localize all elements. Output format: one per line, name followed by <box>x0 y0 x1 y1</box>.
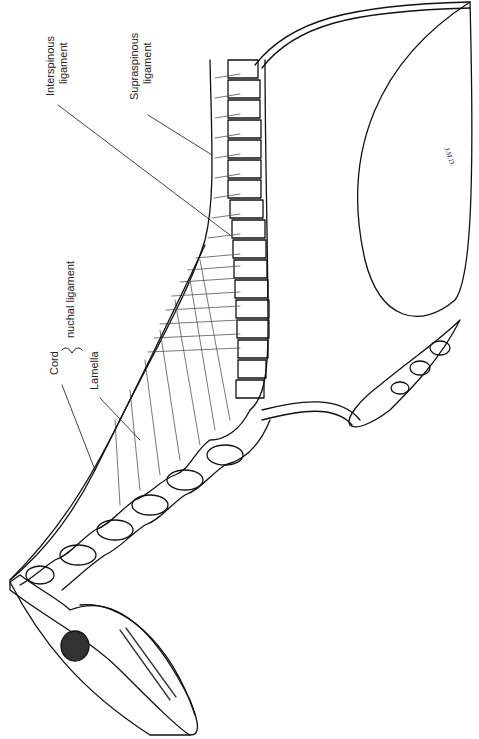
supraspinous-label-line2: ligament <box>141 42 154 84</box>
interspinous-leader <box>58 105 230 235</box>
nuchal-lamella <box>115 260 230 505</box>
interspinous-label-line2: ligament <box>57 42 70 84</box>
nuchal-brace <box>62 348 82 353</box>
cord-label: Cord <box>48 351 61 375</box>
sternum <box>349 320 460 427</box>
supraspinous-leader <box>148 115 212 155</box>
nuchal-cord <box>10 245 205 580</box>
spine-dorsal-line <box>10 60 212 580</box>
cervical-vertebrae <box>20 410 270 590</box>
supraspinous-label-line1: Supraspinous <box>128 33 141 100</box>
thoracic-vertebrae <box>228 60 269 398</box>
cord-leader <box>62 385 95 470</box>
last-rib-inner <box>262 8 470 68</box>
orbit <box>61 631 89 661</box>
anatomy-drawing <box>0 0 479 739</box>
teeth-row <box>120 628 176 700</box>
jaw <box>80 605 195 715</box>
lamella-label: Lamella <box>88 351 101 390</box>
interspinous-hatching <box>148 74 240 352</box>
interspinous-label-line1: Interspinous <box>44 36 57 96</box>
skull-outline <box>10 575 198 735</box>
nuchal-ligament-label: nuchal ligament <box>64 261 77 338</box>
last-rib <box>255 2 470 65</box>
lamella-leader <box>100 398 140 440</box>
